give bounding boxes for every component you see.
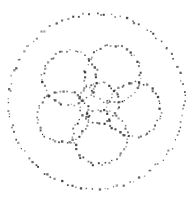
scatter-dot bbox=[36, 117, 38, 119]
dot-scatter-layer bbox=[0, 0, 193, 207]
scatter-dot bbox=[119, 155, 121, 157]
scatter-dot bbox=[88, 58, 90, 60]
scatter-dot bbox=[94, 66, 96, 68]
scatter-dot bbox=[118, 117, 120, 119]
scatter-dot bbox=[8, 98, 9, 99]
scatter-dot bbox=[153, 128, 155, 130]
scatter-dot bbox=[133, 22, 135, 24]
scatter-dot bbox=[100, 48, 102, 50]
scatter-dot bbox=[106, 113, 108, 115]
scatter-dot bbox=[155, 38, 157, 40]
scatter-dot bbox=[185, 95, 186, 96]
scatter-dot bbox=[49, 138, 51, 140]
scatter-dot bbox=[116, 92, 118, 94]
scatter-dot bbox=[44, 85, 46, 87]
scatter-dot bbox=[133, 181, 134, 182]
scatter-dot bbox=[130, 82, 132, 84]
scatter-dot bbox=[84, 55, 85, 56]
scatter-dot bbox=[80, 92, 82, 94]
scatter-dot bbox=[46, 173, 48, 175]
scatter-dot bbox=[46, 90, 47, 91]
scatter-dot bbox=[127, 131, 129, 133]
scatter-dot bbox=[106, 102, 108, 104]
scatter-dot bbox=[86, 188, 87, 189]
scatter-dot bbox=[26, 45, 27, 46]
scatter-dot bbox=[44, 65, 45, 66]
scatter-dot bbox=[86, 97, 87, 98]
scatter-dot bbox=[78, 136, 80, 138]
scatter-dot bbox=[114, 128, 116, 130]
dot-group-petal-circle-right bbox=[106, 81, 162, 139]
scatter-dot bbox=[95, 73, 97, 75]
scatter-dot bbox=[83, 70, 85, 72]
scatter-dot bbox=[127, 139, 128, 140]
scatter-dot bbox=[177, 66, 179, 68]
scatter-dot bbox=[86, 125, 88, 127]
scatter-dot bbox=[98, 162, 100, 164]
scatter-dot bbox=[94, 85, 96, 87]
scatter-dot bbox=[114, 112, 116, 114]
scatter-dot bbox=[126, 48, 128, 50]
scatter-dot bbox=[138, 176, 140, 178]
scatter-dot bbox=[90, 59, 91, 60]
scatter-dot bbox=[79, 119, 80, 120]
scatter-dot bbox=[161, 41, 163, 43]
scatter-dot bbox=[140, 136, 142, 138]
scatter-dot bbox=[58, 141, 60, 143]
scatter-dot bbox=[166, 48, 168, 50]
scatter-dot bbox=[46, 95, 48, 97]
scatter-dot bbox=[119, 131, 121, 133]
scatter-dot bbox=[88, 161, 90, 163]
scatter-dot bbox=[71, 139, 73, 141]
scatter-dot bbox=[87, 105, 89, 107]
scatter-dot bbox=[126, 17, 128, 19]
scatter-dot bbox=[73, 105, 75, 107]
scatter-dot bbox=[91, 110, 93, 112]
scatter-dot bbox=[96, 122, 98, 124]
scatter-dot bbox=[93, 51, 95, 53]
scatter-dot bbox=[172, 148, 173, 149]
scatter-dot bbox=[75, 50, 76, 51]
scatter-dot bbox=[103, 14, 105, 16]
scatter-dot bbox=[85, 128, 86, 129]
scatter-dot bbox=[138, 137, 140, 139]
scatter-dot bbox=[37, 122, 39, 124]
scatter-dot bbox=[28, 157, 30, 159]
scatter-dot bbox=[135, 81, 137, 83]
scatter-dot bbox=[140, 78, 141, 79]
scatter-dot bbox=[93, 96, 95, 98]
scatter-dot bbox=[106, 107, 107, 108]
scatter-dot bbox=[96, 69, 98, 71]
scatter-dot bbox=[37, 166, 39, 168]
scatter-dot bbox=[90, 162, 92, 164]
scatter-dot bbox=[52, 139, 54, 141]
scatter-dot bbox=[82, 157, 84, 159]
scatter-dot bbox=[44, 73, 46, 75]
scatter-dot bbox=[78, 16, 80, 18]
scatter-dot bbox=[104, 82, 106, 84]
scatter-dot bbox=[53, 58, 55, 60]
scatter-dot bbox=[48, 95, 50, 97]
scatter-dot bbox=[124, 100, 125, 101]
scatter-dot bbox=[130, 95, 132, 97]
scatter-dot bbox=[100, 110, 102, 112]
scatter-dot bbox=[96, 82, 98, 84]
scatter-dot bbox=[53, 99, 55, 101]
scatter-dot bbox=[10, 75, 12, 77]
scatter-dot bbox=[109, 110, 110, 111]
scatter-dot bbox=[12, 124, 14, 126]
scatter-dot bbox=[15, 67, 17, 69]
scatter-dot bbox=[144, 175, 145, 176]
scatter-dot bbox=[39, 105, 40, 106]
scatter-dot bbox=[108, 85, 110, 87]
scatter-dot bbox=[166, 154, 167, 155]
scatter-dot bbox=[122, 101, 124, 103]
scatter-dot bbox=[122, 134, 124, 136]
scatter-dot bbox=[99, 98, 101, 100]
scatter-dot bbox=[118, 101, 120, 103]
scatter-dot bbox=[59, 51, 61, 53]
scatter-dot bbox=[44, 97, 46, 99]
scatter-dot bbox=[77, 102, 79, 104]
scatter-dot bbox=[42, 134, 43, 135]
scatter-dot bbox=[41, 79, 42, 80]
